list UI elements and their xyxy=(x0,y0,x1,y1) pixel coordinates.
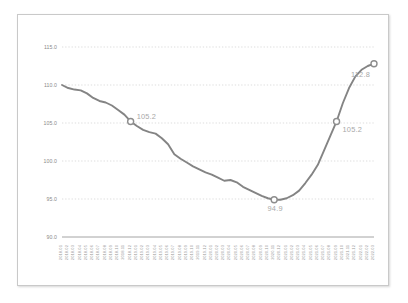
x-axis-tick-label: 2020.09 xyxy=(258,244,263,260)
x-axis-tick-label: 2020.01 xyxy=(208,244,213,260)
data-point-marker xyxy=(128,118,134,124)
y-axis-tick-labels: 115.0110.0105.0100.095.090.0 xyxy=(44,44,57,240)
x-axis-tick-label: 2021.05 xyxy=(308,244,313,260)
x-axis-tick-label: 2020.10 xyxy=(264,244,269,260)
x-axis-tick-label: 2020.05 xyxy=(233,244,238,260)
data-markers-group xyxy=(128,61,377,203)
x-axis-tick-label: 2019.11 xyxy=(195,244,200,260)
x-axis-tick-label: 2021.06 xyxy=(314,244,319,260)
chart-frame: 115.0110.0105.0100.095.090.0 2018.012018… xyxy=(17,14,389,286)
x-axis-tick-label: 2019.01 xyxy=(133,244,138,260)
y-axis-tick-label: 105.0 xyxy=(44,120,57,126)
data-point-annotation: 94.9 xyxy=(268,204,283,213)
x-axis-tick-label: 2019.10 xyxy=(189,244,194,260)
y-axis-tick-label: 115.0 xyxy=(44,44,57,50)
data-line xyxy=(62,64,374,200)
y-axis-tick-label: 110.0 xyxy=(44,82,57,88)
x-axis-tick-label: 2019.07 xyxy=(170,244,175,260)
x-axis-tick-label: 2018.12 xyxy=(127,244,132,260)
x-axis-tick-label: 2019.02 xyxy=(139,244,144,260)
x-axis-tick-label: 2020.04 xyxy=(226,244,231,260)
x-axis-tick-label: 2018.02 xyxy=(64,244,69,260)
x-axis-tick-label: 2021.02 xyxy=(289,244,294,260)
x-axis-tick-label: 2021.04 xyxy=(301,244,306,260)
x-axis-tick-label: 2020.11 xyxy=(270,244,275,260)
x-axis-tick-label: 2021.10 xyxy=(339,244,344,260)
y-axis-tick-label: 100.0 xyxy=(44,158,57,164)
x-axis-tick-label: 2019.09 xyxy=(183,244,188,260)
data-series-group xyxy=(62,64,374,200)
x-axis-tick-label: 2020.08 xyxy=(251,244,256,260)
x-axis-tick-label: 2019.04 xyxy=(152,244,157,260)
x-axis-tick-label: 2018.07 xyxy=(95,244,100,260)
x-axis-tick-label: 2018.10 xyxy=(114,244,119,260)
x-axis-tick-label: 2018.05 xyxy=(83,244,88,260)
x-axis-tick-label: 2019.05 xyxy=(158,244,163,260)
y-axis-tick-label: 95.0 xyxy=(47,196,58,202)
y-axis-tick-label: 90.0 xyxy=(47,234,58,240)
x-axis-tick-label: 2021.07 xyxy=(320,244,325,260)
x-axis-tick-label: 2018.04 xyxy=(77,244,82,260)
x-axis-tick-label: 2020.03 xyxy=(220,244,225,260)
x-axis-tick-label: 2018.08 xyxy=(102,244,107,260)
x-axis-tick-label: 2019.03 xyxy=(145,244,150,260)
x-axis-tick-label: 2018.09 xyxy=(108,244,113,260)
x-axis-tick-label: 2021.12 xyxy=(351,244,356,260)
data-point-annotation: 105.2 xyxy=(343,125,363,134)
x-axis-tick-label: 2018.11 xyxy=(120,244,125,260)
x-axis-tick-label: 2022.01 xyxy=(358,244,363,260)
x-axis-tick-label: 2020.12 xyxy=(276,244,281,260)
data-point-annotation: 112.8 xyxy=(351,70,370,79)
chart-plot-area: 115.0110.0105.0100.095.090.0 2018.012018… xyxy=(18,15,390,287)
x-axis-tick-label: 2018.06 xyxy=(89,244,94,260)
x-axis-tick-label: 2019.06 xyxy=(164,244,169,260)
x-axis-tick-label: 2021.01 xyxy=(283,244,288,260)
x-axis-tick-label: 2019.08 xyxy=(177,244,182,260)
x-axis-tick-label: 2020.07 xyxy=(245,244,250,260)
data-point-marker xyxy=(271,197,277,203)
x-axis-tick-label: 2021.08 xyxy=(326,244,331,260)
x-axis-tick-labels: 2018.012018.022018.032018.042018.052018.… xyxy=(58,244,375,260)
x-axis-tick-label: 2022.03 xyxy=(370,244,375,260)
data-point-marker xyxy=(371,61,377,67)
x-axis-tick-label: 2021.11 xyxy=(345,244,350,260)
x-axis-tick-label: 2018.03 xyxy=(70,244,75,260)
x-axis-tick-label: 2021.03 xyxy=(295,244,300,260)
line-chart: 115.0110.0105.0100.095.090.0 2018.012018… xyxy=(18,15,390,287)
data-point-marker xyxy=(334,118,340,124)
data-point-annotation: 105.2 xyxy=(137,112,157,121)
x-axis-tick-label: 2021.09 xyxy=(333,244,338,260)
x-axis-tick-label: 2020.02 xyxy=(214,244,219,260)
x-axis-tick-label: 2020.06 xyxy=(239,244,244,260)
x-axis-tick-label: 2022.02 xyxy=(364,244,369,260)
x-axis-tick-label: 2019.12 xyxy=(202,244,207,260)
x-axis-tick-label: 2018.01 xyxy=(58,244,63,260)
